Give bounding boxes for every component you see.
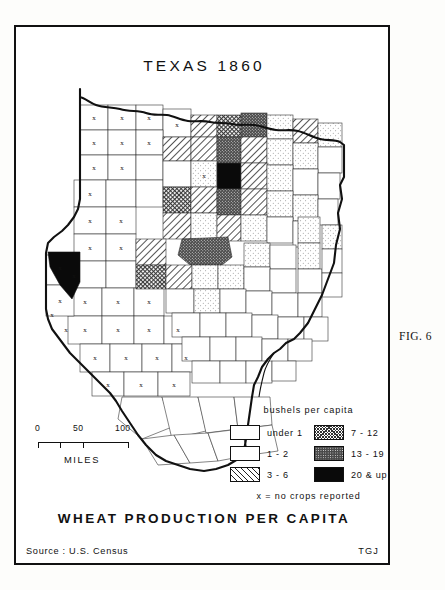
scale-bar-tick-0 xyxy=(38,442,39,448)
svg-text:x: x xyxy=(175,121,179,129)
legend-label-under1: under 1 xyxy=(267,428,303,438)
legend-item-under1: under 1 xyxy=(230,422,310,443)
legend-swatch-7-12 xyxy=(314,425,344,440)
svg-text:x: x xyxy=(176,326,180,334)
legend-column-right: 7 - 12 13 - 19 20 & up xyxy=(314,422,394,485)
svg-text:x: x xyxy=(139,381,143,389)
svg-text:x: x xyxy=(119,244,123,252)
svg-text:x: x xyxy=(58,297,62,305)
svg-text:x: x xyxy=(116,326,120,334)
legend-item-20up: 20 & up xyxy=(314,464,394,485)
figure-number-label: FIG. 6 xyxy=(399,330,432,342)
svg-text:x: x xyxy=(172,381,176,389)
legend-title: bushels per capita xyxy=(226,405,391,415)
figure-page: FIG. 6 TEXAS 1860 xyxy=(0,0,445,590)
svg-text:x: x xyxy=(120,114,124,122)
svg-text:x: x xyxy=(58,264,62,272)
map-credit-initials: TGJ xyxy=(358,546,379,556)
svg-text:x: x xyxy=(147,114,151,122)
legend-swatch-under1 xyxy=(230,425,260,440)
legend-label-1-2: 1 - 2 xyxy=(267,449,289,459)
legend-item-13-19: 13 - 19 xyxy=(314,443,394,464)
county-dark-b xyxy=(217,137,241,163)
svg-text:x: x xyxy=(184,354,188,362)
svg-text:x: x xyxy=(88,190,92,198)
svg-text:x: x xyxy=(83,298,87,306)
svg-text:x: x xyxy=(120,139,124,147)
legend-label-20up: 20 & up xyxy=(351,470,387,480)
scale-bar-tick-50 xyxy=(83,442,84,448)
scale-bar-tick-100 xyxy=(128,442,129,448)
svg-text:x: x xyxy=(83,326,87,334)
svg-text:x: x xyxy=(92,139,96,147)
legend-item-3-6: 3 - 6 xyxy=(230,464,310,485)
scale-tick-label-100: 100 xyxy=(115,423,131,433)
svg-text:x: x xyxy=(88,217,92,225)
svg-text:x: x xyxy=(88,244,92,252)
svg-text:x: x xyxy=(155,354,159,362)
map-caption: WHEAT PRODUCTION PER CAPITA xyxy=(16,511,392,526)
svg-text:x: x xyxy=(202,172,206,180)
legend-label-3-6: 3 - 6 xyxy=(267,470,289,480)
scale-bar-numbers: 0 50 100 xyxy=(32,423,152,437)
legend-swatch-3-6 xyxy=(230,467,260,482)
svg-text:x: x xyxy=(106,381,110,389)
county-dark-central-13-19 xyxy=(178,237,232,265)
scale-bar-unit-label: MILES xyxy=(32,454,132,465)
map-frame: TEXAS 1860 xyxy=(14,25,390,565)
scale-bar-tick-25 xyxy=(60,442,61,448)
county-crosshatch-a xyxy=(217,115,241,137)
map-source-note: Source : U.S. Census xyxy=(26,546,128,556)
svg-text:x: x xyxy=(50,311,54,319)
svg-text:x: x xyxy=(92,164,96,172)
svg-text:x: x xyxy=(116,298,120,306)
svg-text:x: x xyxy=(147,139,151,147)
svg-text:x: x xyxy=(124,354,128,362)
svg-text:x: x xyxy=(72,272,76,280)
legend-swatch-20up xyxy=(314,467,344,482)
legend-swatch-13-19 xyxy=(314,446,344,461)
legend-item-7-12: 7 - 12 xyxy=(314,422,394,443)
scale-tick-label-0: 0 xyxy=(35,423,40,433)
legend-label-13-19: 13 - 19 xyxy=(351,449,384,459)
svg-text:x: x xyxy=(64,326,68,334)
svg-text:x: x xyxy=(93,354,97,362)
map-legend: bushels per capita under 1 1 - 2 3 - 6 xyxy=(226,405,391,510)
county-hatch-a xyxy=(191,115,217,137)
legend-item-1-2: 1 - 2 xyxy=(230,443,310,464)
svg-text:x: x xyxy=(147,298,151,306)
svg-text:x: x xyxy=(92,114,96,122)
svg-text:x: x xyxy=(119,217,123,225)
scale-bar: 0 50 100 MILES xyxy=(32,423,152,475)
svg-text:x: x xyxy=(147,326,151,334)
legend-swatch-1-2 xyxy=(230,446,260,461)
county-black-north-20up xyxy=(217,163,241,189)
legend-column-left: under 1 1 - 2 3 - 6 xyxy=(230,422,310,485)
legend-no-crops-note: x = no crops reported xyxy=(226,491,391,501)
scale-tick-label-50: 50 xyxy=(73,423,83,433)
legend-label-7-12: 7 - 12 xyxy=(351,428,378,438)
county-dark-c xyxy=(217,189,241,215)
svg-text:x: x xyxy=(120,164,124,172)
